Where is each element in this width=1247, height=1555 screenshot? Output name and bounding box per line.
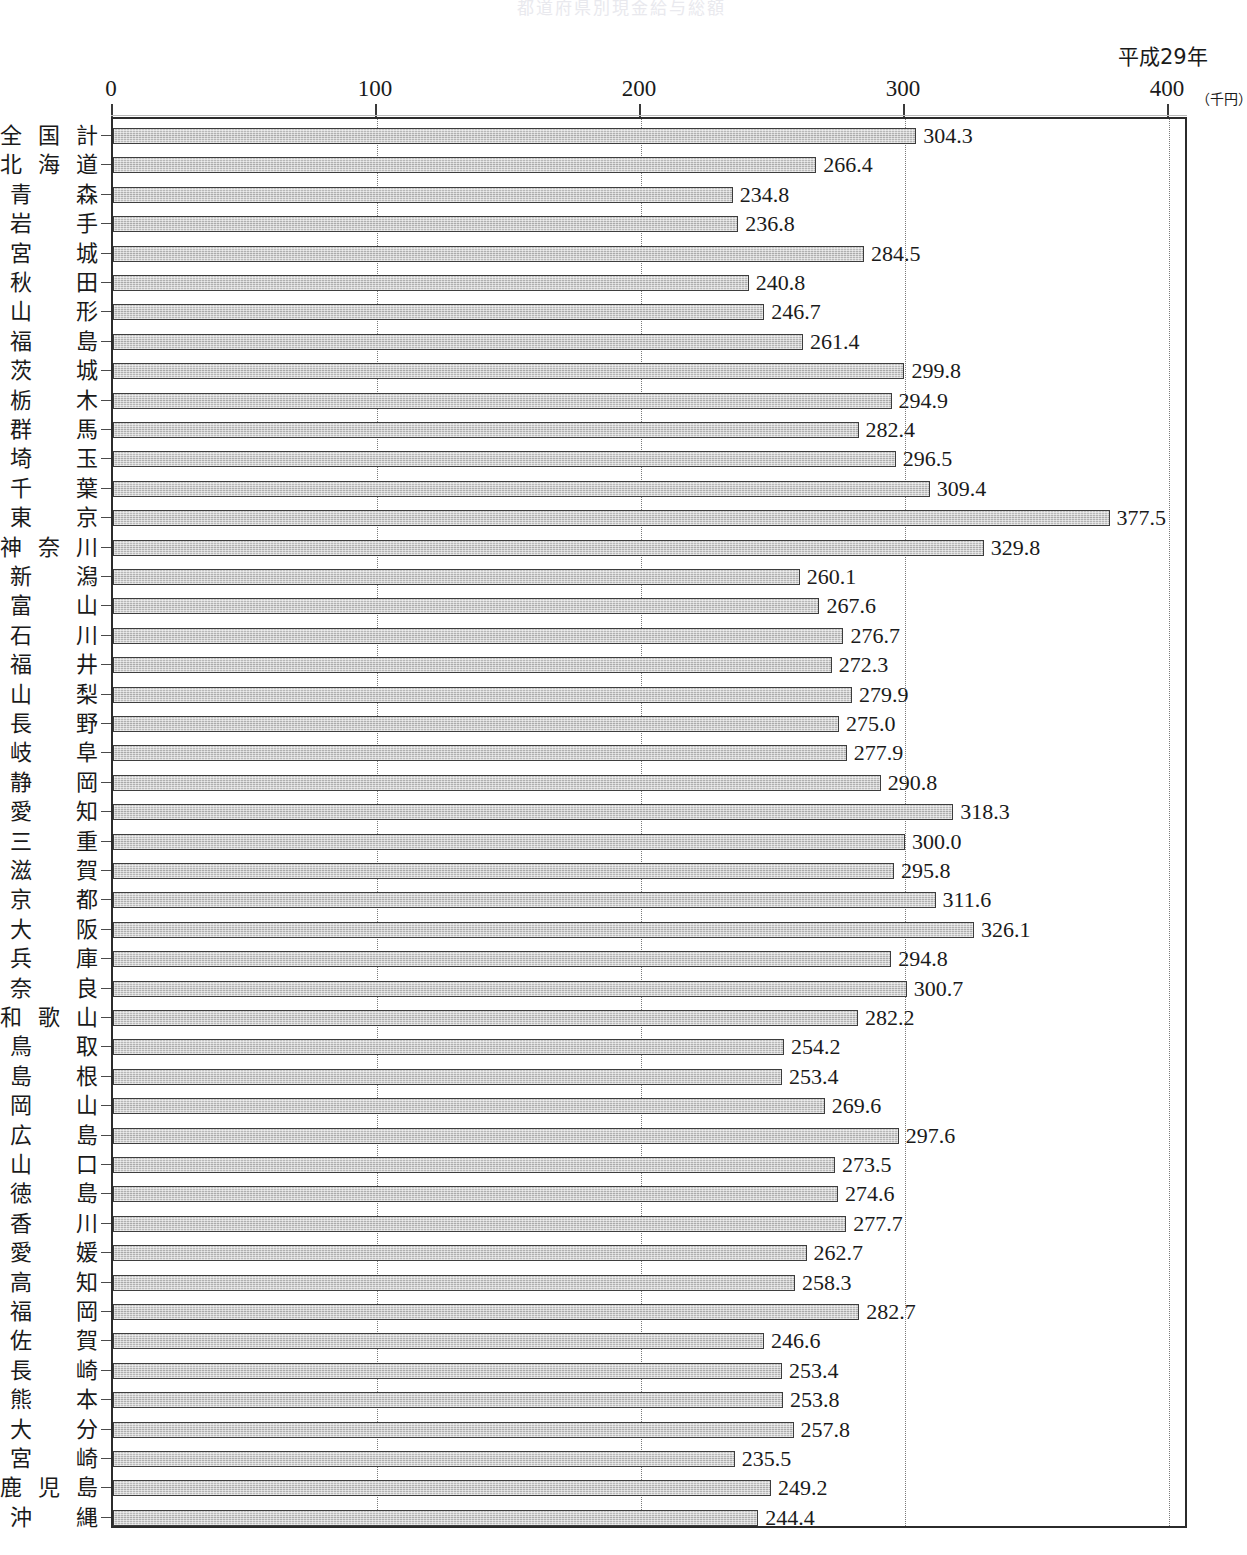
x-tick-label-300: 300 (886, 76, 921, 102)
bar[interactable] (113, 334, 803, 350)
bar[interactable] (113, 569, 800, 585)
category-label-char: 福 (10, 329, 32, 355)
category-label-char: 島 (76, 1181, 98, 1207)
bar[interactable] (113, 716, 839, 732)
bar[interactable] (113, 157, 816, 173)
category-label-char: 良 (76, 976, 98, 1002)
category-label: 鹿児島 (0, 1475, 98, 1501)
bar[interactable] (113, 393, 892, 409)
bar-row: 京都311.6 (0, 885, 1242, 915)
bar[interactable] (113, 981, 907, 997)
bar[interactable] (113, 1422, 794, 1438)
y-tick-mark (101, 1370, 111, 1371)
bar[interactable] (113, 1128, 899, 1144)
bar[interactable] (113, 1333, 764, 1349)
category-label-char: 岐 (10, 740, 32, 766)
bar[interactable] (113, 540, 984, 556)
bar[interactable] (113, 834, 905, 850)
bar[interactable] (113, 951, 891, 967)
bar[interactable] (113, 1451, 735, 1467)
bar[interactable] (113, 363, 904, 379)
bar[interactable] (113, 657, 832, 673)
bar-value-label: 246.7 (771, 299, 821, 325)
bar[interactable] (113, 892, 936, 908)
bar[interactable] (113, 1392, 783, 1408)
bar[interactable] (113, 628, 843, 644)
category-label-char: 愛 (10, 799, 32, 825)
bar[interactable] (113, 187, 733, 203)
bar-row: 高知258.3 (0, 1268, 1242, 1298)
bar-row: 石川276.7 (0, 621, 1242, 651)
bar[interactable] (113, 128, 916, 144)
bar-row: 徳島274.6 (0, 1179, 1242, 1209)
y-tick-mark (101, 958, 111, 959)
category-label-char: 形 (76, 299, 98, 325)
bar[interactable] (113, 745, 847, 761)
category-label-char: 城 (76, 358, 98, 384)
y-tick-mark (101, 547, 111, 548)
bar-value-label: 253.4 (789, 1358, 839, 1384)
bar-value-label: 257.8 (801, 1417, 851, 1443)
bar-row: 岩手236.8 (0, 209, 1242, 239)
bar[interactable] (113, 1304, 859, 1320)
y-tick-mark (101, 1193, 111, 1194)
bar[interactable] (113, 451, 896, 467)
bar[interactable] (113, 1010, 858, 1026)
bar-row: 山形246.7 (0, 297, 1242, 327)
y-tick-mark (101, 1046, 111, 1047)
bar[interactable] (113, 422, 859, 438)
bar[interactable] (113, 510, 1110, 526)
bar[interactable] (113, 481, 930, 497)
bar[interactable] (113, 804, 953, 820)
bar[interactable] (113, 1069, 782, 1085)
category-label-char: 鹿 (0, 1475, 22, 1501)
bar[interactable] (113, 1157, 835, 1173)
category-label-char: 奈 (38, 535, 60, 561)
category-label-char: 和 (0, 1005, 22, 1031)
category-label: 岩手 (0, 211, 98, 237)
bar[interactable] (113, 1363, 782, 1379)
bar-value-label: 260.1 (807, 564, 857, 590)
category-label-char: 京 (76, 505, 98, 531)
bar-row: 山梨279.9 (0, 680, 1242, 710)
category-label-char: 道 (76, 152, 98, 178)
bar[interactable] (113, 1245, 807, 1261)
category-label-char: 長 (10, 1358, 32, 1384)
bar[interactable] (113, 598, 819, 614)
bar[interactable] (113, 922, 974, 938)
category-label-char: 東 (10, 505, 32, 531)
category-label: 岡山 (0, 1093, 98, 1119)
y-tick-mark (101, 635, 111, 636)
y-tick-mark (101, 1076, 111, 1077)
category-label: 香川 (0, 1211, 98, 1237)
bar[interactable] (113, 1039, 784, 1055)
category-label-char: 根 (76, 1064, 98, 1090)
category-label-char: 北 (0, 152, 22, 178)
bar-value-label: 277.7 (853, 1211, 903, 1237)
bar[interactable] (113, 275, 749, 291)
bar[interactable] (113, 216, 738, 232)
bar[interactable] (113, 1186, 838, 1202)
bar[interactable] (113, 863, 894, 879)
bar[interactable] (113, 687, 852, 703)
bar[interactable] (113, 1216, 846, 1232)
category-label-char: 潟 (76, 564, 98, 590)
bar[interactable] (113, 1098, 825, 1114)
category-label-char: 群 (10, 417, 32, 443)
category-label-char: 滋 (10, 858, 32, 884)
bar-row: 青森234.8 (0, 180, 1242, 210)
bar-value-label: 300.7 (914, 976, 964, 1002)
category-label-char: 都 (76, 887, 98, 913)
bar[interactable] (113, 304, 764, 320)
category-label: 愛知 (0, 799, 98, 825)
category-label: 全国計 (0, 123, 98, 149)
bar[interactable] (113, 246, 864, 262)
bar[interactable] (113, 1480, 771, 1496)
category-label-char: 千 (10, 476, 32, 502)
bar-row: 大分257.8 (0, 1415, 1242, 1445)
category-label-char: 児 (38, 1475, 60, 1501)
bar[interactable] (113, 1275, 795, 1291)
bar[interactable] (113, 1510, 758, 1526)
category-label: 静岡 (0, 770, 98, 796)
bar[interactable] (113, 775, 881, 791)
